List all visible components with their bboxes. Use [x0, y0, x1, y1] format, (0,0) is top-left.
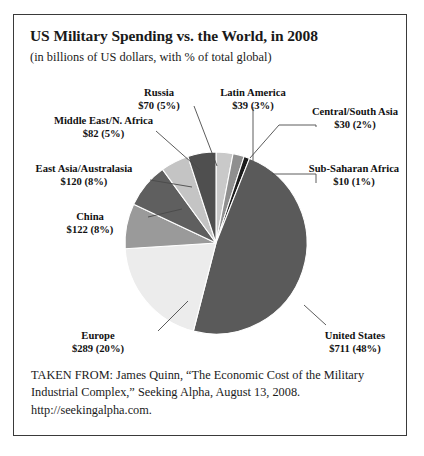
leader-line-group [148, 106, 326, 331]
pie-label-sub-saharan-africa-name: Sub-Saharan Africa [300, 163, 408, 176]
leader-line-china [148, 209, 182, 217]
pie-slice-russia [188, 152, 216, 243]
pie-slice-europe [125, 243, 216, 331]
pie-label-europe: Europe $289 (20%) [43, 330, 153, 356]
page-title: US Military Spending vs. the World, in 2… [30, 27, 394, 44]
pie-slice-central-south-asia [216, 154, 244, 243]
pie-label-sub-saharan-africa-value: $10 (1%) [300, 176, 408, 189]
pie-label-united-states-value: $711 (48%) [306, 343, 404, 356]
pie-slice-group [125, 152, 307, 334]
pie-label-china: China $122 (8%) [40, 211, 140, 237]
chart-subtitle: (in billions of US dollars, with % of to… [30, 51, 394, 65]
source-line-2: Industrial Complex,” Seeking Alpha, Augu… [31, 384, 392, 401]
pie-label-united-states-name: United States [306, 330, 404, 343]
pie-slice-middle-east-n-africa [163, 156, 216, 243]
pie-label-central-south-asia-name: Central/South Asia [303, 106, 407, 119]
pie-slice-united-states [193, 158, 307, 334]
pie-label-east-asia-australasia-name: East Asia/Australasia [21, 163, 147, 176]
leader-line-united-states [304, 305, 326, 325]
pie-label-russia: Russia $70 (5%) [114, 87, 204, 113]
pie-label-china-value: $122 (8%) [40, 224, 140, 237]
pie-label-east-asia-australasia-value: $120 (8%) [21, 176, 147, 189]
pie-label-latin-america: Latin America $39 (3%) [203, 87, 303, 113]
pie-label-middle-east-n-africa: Middle East/N. Africa $82 (5%) [46, 115, 161, 141]
title-block: US Military Spending vs. the World, in 2… [30, 27, 394, 65]
leader-line-east-asia [150, 180, 192, 187]
pie-label-united-states: United States $711 (48%) [306, 330, 404, 356]
leader-line-europe [158, 301, 188, 331]
figure-frame: US Military Spending vs. the World, in 2… [13, 14, 407, 436]
pie-label-east-asia-australasia: East Asia/Australasia $120 (8%) [21, 163, 147, 189]
pie-label-central-south-asia-value: $30 (2%) [303, 119, 407, 132]
pie-label-middle-east-n-africa-name: Middle East/N. Africa [46, 115, 161, 128]
pie-label-middle-east-n-africa-value: $82 (5%) [46, 128, 161, 141]
pie-label-russia-value: $70 (5%) [114, 100, 204, 113]
pie-label-sub-saharan-africa: Sub-Saharan Africa $10 (1%) [300, 163, 408, 189]
pie-slice-sub-saharan-africa [216, 156, 250, 243]
leader-line-middle-east [156, 131, 200, 170]
pie-label-central-south-asia: Central/South Asia $30 (2%) [303, 106, 407, 132]
pie-label-europe-name: Europe [43, 330, 153, 343]
pie-label-europe-value: $289 (20%) [43, 343, 153, 356]
source-line-3: http://seekingalpha.com. [31, 402, 392, 419]
pie-label-russia-name: Russia [114, 87, 204, 100]
pie-slice-latin-america [216, 152, 233, 243]
source-citation: TAKEN FROM: James Quinn, “The Economic C… [31, 367, 392, 419]
leader-line-central-south-asia-d [250, 125, 279, 158]
pie-label-china-name: China [40, 211, 140, 224]
pie-label-latin-america-value: $39 (3%) [203, 100, 303, 113]
pie-label-latin-america-name: Latin America [203, 87, 303, 100]
leader-line-russia [194, 106, 217, 166]
source-line-1: TAKEN FROM: James Quinn, “The Economic C… [31, 367, 392, 384]
